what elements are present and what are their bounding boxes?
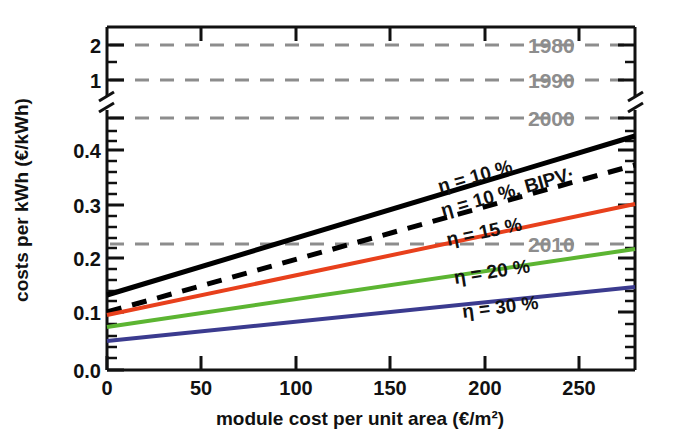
x-tick-label-250: 250	[562, 377, 595, 399]
x-tick-label-0: 0	[101, 377, 112, 399]
chart-background	[0, 0, 677, 442]
year-label-2000: 2000	[528, 107, 575, 130]
y-tick-label-1: 1	[90, 70, 101, 92]
x-tick-label-100: 100	[279, 377, 312, 399]
chart-figure: 2 1 0.4 0.3 0.2 0.1 0.0 0 50 100 150 200…	[0, 0, 677, 442]
year-label-2010: 2010	[528, 233, 575, 256]
x-tick-label-150: 150	[373, 377, 406, 399]
y-tick-label-0-4: 0.4	[73, 140, 102, 162]
year-label-1990: 1990	[528, 69, 575, 92]
y-tick-label-0-0: 0.0	[73, 360, 101, 382]
x-axis-title: module cost per unit area (€/m²)	[216, 408, 504, 429]
y-tick-label-0-3: 0.3	[73, 195, 101, 217]
x-tick-label-50: 50	[190, 377, 212, 399]
y-axis-title: costs per kWh (€/kWh)	[11, 98, 32, 302]
y-tick-label-0-2: 0.2	[73, 248, 101, 270]
x-tick-label-200: 200	[468, 377, 501, 399]
y-tick-label-0-1: 0.1	[73, 302, 101, 324]
chart-svg: 2 1 0.4 0.3 0.2 0.1 0.0 0 50 100 150 200…	[0, 0, 677, 442]
y-tick-label-2: 2	[90, 35, 101, 57]
year-label-1980: 1980	[528, 34, 575, 57]
